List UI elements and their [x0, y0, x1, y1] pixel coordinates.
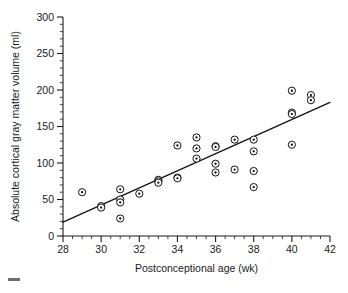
data-point-center [81, 191, 83, 193]
data-point-center [233, 168, 235, 170]
data-point [193, 134, 200, 141]
data-point-center [195, 147, 197, 149]
y-axis-ticks [57, 17, 63, 236]
data-point [98, 204, 105, 211]
data-point [307, 97, 314, 104]
x-axis-title: Postconceptional age (wk) [135, 262, 258, 274]
x-tick-label: 40 [286, 243, 298, 255]
data-point-center [119, 217, 121, 219]
chart-canvas: 050100150200250300 2830323436384042 Post… [0, 0, 348, 293]
y-axis-tick-labels: 050100150200250300 [36, 11, 54, 242]
data-point-center [214, 146, 216, 148]
caption-rule [8, 278, 20, 281]
data-point [288, 87, 295, 94]
data-point-center [195, 157, 197, 159]
data-point-center [310, 94, 312, 96]
data-point-center [291, 113, 293, 115]
data-point [193, 145, 200, 152]
y-tick-label: 50 [42, 193, 54, 205]
x-tick-label: 30 [95, 243, 107, 255]
data-point-center [291, 144, 293, 146]
scatter-plot-figure: 050100150200250300 2830323436384042 Post… [0, 0, 348, 293]
data-point-center [119, 188, 121, 190]
y-tick-label: 200 [36, 84, 54, 96]
data-point-center [253, 170, 255, 172]
x-tick-label: 38 [248, 243, 260, 255]
data-point-center [253, 138, 255, 140]
data-point-center [253, 186, 255, 188]
x-tick-label: 34 [172, 243, 184, 255]
data-point-center [291, 90, 293, 92]
data-point [174, 142, 181, 149]
x-tick-label: 36 [210, 243, 222, 255]
data-point [231, 136, 238, 143]
data-point [117, 186, 124, 193]
data-point [288, 110, 295, 117]
data-point [212, 160, 219, 167]
data-point-center [100, 206, 102, 208]
data-point [174, 175, 181, 182]
data-point [155, 179, 162, 186]
x-axis-tick-labels: 2830323436384042 [57, 243, 336, 255]
x-axis-ticks [63, 236, 330, 242]
y-tick-label: 0 [48, 230, 54, 242]
data-point [250, 136, 257, 143]
data-point [250, 148, 257, 155]
data-point [288, 141, 295, 148]
y-axis-title: Absolute cortical gray matter volume (ml… [9, 31, 21, 222]
data-point [231, 166, 238, 173]
data-point [117, 199, 124, 206]
data-point-center [214, 171, 216, 173]
data-point-center [195, 136, 197, 138]
data-point-center [176, 144, 178, 146]
data-point-center [253, 150, 255, 152]
y-tick-label: 300 [36, 11, 54, 23]
data-point-center [214, 163, 216, 165]
data-point [117, 215, 124, 222]
data-point [136, 190, 143, 197]
data-point-center [310, 99, 312, 101]
x-tick-label: 32 [133, 243, 145, 255]
data-point [250, 167, 257, 174]
data-point [212, 169, 219, 176]
x-tick-label: 28 [57, 243, 69, 255]
data-point-center [176, 177, 178, 179]
data-point [250, 183, 257, 190]
data-point-center [157, 182, 159, 184]
data-points [78, 87, 314, 222]
y-tick-label: 150 [36, 120, 54, 132]
y-tick-label: 100 [36, 157, 54, 169]
data-point-center [233, 138, 235, 140]
y-tick-label: 250 [36, 47, 54, 59]
data-point-center [119, 201, 121, 203]
data-point [212, 143, 219, 150]
data-point [78, 189, 85, 196]
data-point [193, 155, 200, 162]
data-point-center [138, 193, 140, 195]
x-tick-label: 42 [324, 243, 336, 255]
